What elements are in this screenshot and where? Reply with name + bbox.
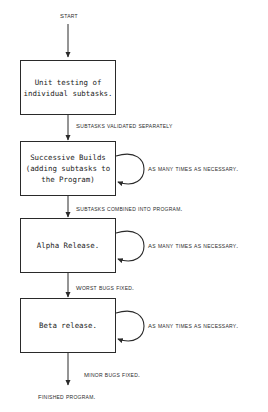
- process-box-beta-release[interactable]: Beta release.: [20, 298, 116, 353]
- process-box-unit-testing-text: Unit testing of individual subtasks.: [24, 77, 113, 99]
- loop-arrow-beta-release: [116, 311, 144, 341]
- transition-label-minor-bugs-fixed: Minor bugs fixed.: [84, 371, 140, 379]
- process-box-successive-builds-text: Successive Builds (adding subtasks to th…: [26, 152, 111, 185]
- process-box-beta-release-text: Beta release.: [39, 320, 97, 331]
- transition-label-subtasks-combined: Subtasks combined into program.: [76, 205, 183, 213]
- start-label: Start: [60, 12, 78, 20]
- loop-arrow-successive-builds: [116, 154, 144, 184]
- loop-label-alpha-release: As many times as necessary.: [148, 242, 238, 250]
- transition-label-subtasks-validated: Subtasks validated separately: [76, 122, 173, 130]
- process-box-unit-testing[interactable]: Unit testing of individual subtasks.: [20, 60, 116, 115]
- process-box-alpha-release[interactable]: Alpha Release.: [20, 218, 116, 273]
- finished-program-label: Finished Program.: [38, 393, 96, 401]
- transition-label-worst-bugs-fixed: Worst bugs fixed.: [76, 284, 134, 292]
- loop-label-beta-release: As many times as necessary.: [148, 322, 238, 330]
- process-box-alpha-release-text: Alpha Release.: [37, 240, 99, 251]
- loop-arrow-alpha-release: [116, 231, 144, 261]
- process-box-successive-builds[interactable]: Successive Builds (adding subtasks to th…: [20, 141, 116, 196]
- loop-label-successive-builds: As many times as necessary.: [148, 165, 238, 173]
